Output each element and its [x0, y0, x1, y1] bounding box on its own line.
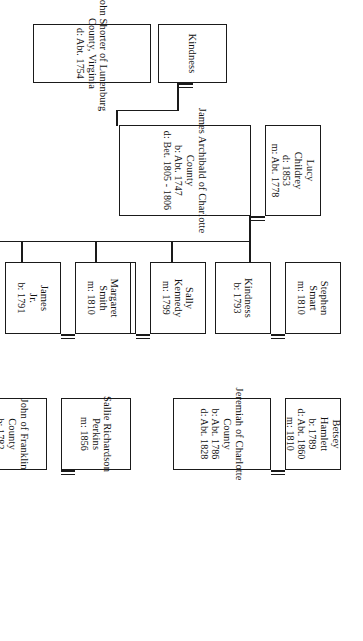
node-name-line: James Archibald of Charlotte [196, 108, 208, 234]
connector-child-kindness [250, 241, 252, 263]
node-name-line: Hamlett [318, 417, 330, 452]
node-name-line: Lucy [304, 160, 316, 182]
node-sally-kennedy[interactable]: Sally Kennedy m: 1799 [150, 262, 206, 334]
node-detail-line: m: 1810 [296, 281, 307, 315]
node-name-line: Kindness [243, 278, 255, 318]
node-name-line: Smart [307, 285, 319, 311]
node-kindness-spouse[interactable]: Kindness [158, 24, 227, 83]
connector-child-robert [96, 241, 98, 263]
node-detail-line: d: Bet. 1805 - 1806 [162, 131, 173, 210]
node-name-line: County [184, 155, 196, 187]
node-name-line: Sally [184, 287, 196, 309]
connector-gen2-drop [117, 110, 179, 112]
node-sallie-perkins[interactable]: Sallie Richardson Perkins m: 1856 [61, 398, 131, 470]
node-name-line: County [6, 418, 18, 450]
node-name-line: Smith [97, 285, 109, 311]
node-name-line: County [221, 418, 233, 450]
node-detail-line: m: 1856 [79, 417, 90, 451]
node-name-line: Kennedy [172, 279, 184, 318]
node-detail-line: d: Abt. 1828 [199, 409, 210, 460]
node-kindness-child[interactable]: Kindness b: 1793 [215, 262, 271, 334]
node-john-shorter[interactable]: John Shorter of Lunenburg County, Virgin… [33, 24, 151, 83]
node-name-line: Betsey [330, 419, 342, 448]
node-detail-line: b: Abt. 1786 [210, 409, 221, 460]
node-stephen-smart[interactable]: Stephen Smart m: 1810 [285, 262, 341, 334]
node-jeremiah[interactable]: Jeremiah of Charlotte County b: Abt. 178… [173, 398, 271, 470]
connector-gen2-in [117, 110, 119, 126]
node-name-line: John of Franklin [18, 399, 30, 470]
node-name-line: John Shorter of Lunenburg [98, 0, 110, 111]
node-detail-line: d: 1853 [281, 155, 292, 186]
node-detail-line: d: Abt. 1754 [75, 28, 86, 79]
node-name-line: Margaret [109, 278, 121, 317]
node-james-archibald[interactable]: James Archibald of Charlotte County b: A… [119, 125, 251, 216]
node-name-line: James [39, 285, 51, 311]
node-name-line: Sallie Richardson [102, 396, 114, 472]
node-detail-line: b: 1793 [232, 283, 243, 314]
node-betsey-hamlett[interactable]: Betsey Hamlett b: 1789 d: Abt. 1860 m: 1… [285, 398, 341, 470]
connector-child-james-jr [22, 241, 24, 263]
node-john-franklin[interactable]: John of Franklin County b: 1782 d: 1856 [0, 398, 47, 470]
node-detail-line: m: 1799 [161, 281, 172, 315]
connector-children-spine [0, 241, 251, 243]
connector-child-jeremiah [172, 241, 174, 263]
node-detail-line: b: 1791 [16, 283, 27, 314]
node-margaret-smith[interactable]: Margaret Smith m: 1810 [75, 262, 131, 334]
node-lucy-childrey[interactable]: Lucy Childrey d: 1853 m: Abt. 1778 [265, 125, 321, 216]
node-name-line: Stephen [319, 281, 331, 316]
node-name-line: Jr. [27, 293, 39, 303]
node-detail-line: m: Abt. 1778 [270, 144, 281, 198]
family-tree-chart: Kindness John Shorter of Lunenburg Count… [0, 0, 363, 641]
node-name-line: County, Virginia [86, 18, 98, 89]
node-name-line: Kindness [187, 34, 199, 74]
node-detail-line: b: 1789 [307, 419, 318, 450]
node-detail-line: m: 1810 [284, 417, 295, 451]
node-detail-line: b: 1782 [0, 419, 6, 450]
node-detail-line: m: 1810 [86, 281, 97, 315]
node-detail-line: b: Abt. 1747 [173, 145, 184, 196]
node-name-line: Jeremiah of Charlotte [233, 387, 245, 480]
node-james-jr[interactable]: James Jr. b: 1791 [5, 262, 61, 334]
node-name-line: Childrey [292, 152, 304, 190]
node-detail-line: d: Abt. 1860 [296, 409, 307, 460]
node-name-line: Perkins [90, 418, 102, 450]
